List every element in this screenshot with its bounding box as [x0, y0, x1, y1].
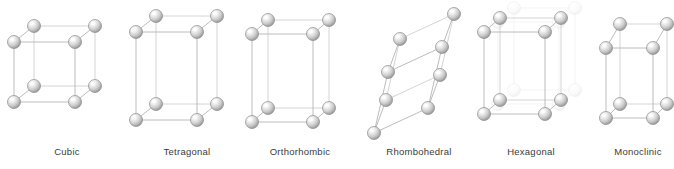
atom-highlight — [496, 96, 500, 99]
atom-highlight — [10, 98, 14, 101]
lattice-atom — [8, 36, 21, 49]
lattice-atom — [600, 112, 613, 125]
unit-cell-atoms — [368, 8, 461, 140]
atom-highlight — [30, 82, 34, 85]
lattice-atom — [661, 98, 674, 111]
unit-cell-rhombohedral — [368, 8, 461, 140]
atom-highlight — [213, 100, 217, 103]
lattice-atom — [368, 127, 381, 140]
lattice-atom — [150, 98, 163, 111]
lattice-atom — [569, 84, 582, 97]
lattice-diagram-canvas — [0, 0, 674, 169]
lattice-atom — [150, 10, 163, 23]
unit-cell-hexagonal — [478, 2, 582, 121]
atom-highlight — [541, 110, 545, 113]
unit-cell-atoms — [600, 18, 674, 125]
atom-highlight — [248, 30, 252, 33]
atom-highlight — [152, 12, 156, 15]
atom-highlight — [602, 114, 606, 117]
atom-highlight — [649, 114, 653, 117]
atom-highlight — [325, 104, 329, 107]
atom-highlight — [132, 116, 136, 119]
atom-highlight — [325, 16, 329, 19]
atom-highlight — [396, 35, 400, 38]
lattice-atom — [555, 94, 568, 107]
atom-highlight — [193, 28, 197, 31]
lattice-atom — [307, 116, 320, 129]
lattice-atom — [323, 102, 336, 115]
atom-highlight — [10, 38, 14, 41]
atom-highlight — [91, 22, 95, 25]
lattice-atom — [539, 26, 552, 39]
lattice-atom — [323, 14, 336, 27]
lattice-atom — [508, 84, 521, 97]
atom-highlight — [438, 43, 442, 46]
atom-highlight — [602, 44, 606, 47]
unit-cell-monoclinic — [600, 18, 674, 125]
lattice-atom — [69, 36, 82, 49]
atom-highlight — [309, 118, 313, 121]
lattice-atom — [130, 26, 143, 39]
atom-highlight — [557, 14, 561, 17]
unit-cell-atoms — [130, 10, 224, 127]
atom-highlight — [541, 28, 545, 31]
lattice-atom — [89, 20, 102, 33]
atom-highlight — [91, 82, 95, 85]
lattice-atom — [555, 12, 568, 25]
atom-highlight — [264, 16, 268, 19]
lattice-atom — [569, 2, 582, 15]
lattice-atom — [647, 42, 660, 55]
unit-cell-cubic — [8, 20, 102, 109]
cell-label-rhombohedral: Rhombohedral — [386, 146, 451, 158]
atom-highlight — [370, 129, 374, 132]
atom-highlight — [309, 30, 313, 33]
lattice-atom — [246, 28, 259, 41]
cell-label-monoclinic: Monoclinic — [614, 146, 661, 158]
lattice-atom — [494, 12, 507, 25]
atom-highlight — [248, 118, 252, 121]
lattice-atom — [478, 26, 491, 39]
unit-cell-edges — [136, 16, 217, 120]
lattice-atom — [191, 26, 204, 39]
unit-cell-atoms — [8, 20, 102, 109]
atom-highlight — [71, 98, 75, 101]
lattice-atom — [246, 116, 259, 129]
cell-label-hexagonal: Hexagonal — [507, 146, 555, 158]
lattice-atom — [448, 8, 461, 21]
lattice-atom — [307, 28, 320, 41]
atom-highlight — [663, 20, 667, 23]
lattice-atom — [494, 94, 507, 107]
lattice-atom — [434, 69, 447, 82]
lattice-atom — [661, 18, 674, 31]
atom-highlight — [663, 100, 667, 103]
lattice-atom — [614, 18, 627, 31]
atom-highlight — [152, 100, 156, 103]
lattice-atom — [614, 98, 627, 111]
atom-highlight — [424, 104, 428, 107]
atom-highlight — [193, 116, 197, 119]
unit-cell-tetragonal — [130, 10, 224, 127]
atom-highlight — [496, 14, 500, 17]
lattice-atom — [262, 102, 275, 115]
atom-highlight — [616, 20, 620, 23]
atom-highlight — [382, 96, 386, 99]
lattice-atom — [380, 94, 393, 107]
lattice-atom — [478, 108, 491, 121]
cell-label-cubic: Cubic — [54, 146, 80, 158]
atom-highlight — [213, 12, 217, 15]
lattice-atom — [69, 96, 82, 109]
lattice-atom — [8, 96, 21, 109]
lattice-atom — [394, 33, 407, 46]
atom-highlight — [264, 104, 268, 107]
atom-highlight — [132, 28, 136, 31]
atom-highlight — [557, 96, 561, 99]
atom-highlight — [480, 110, 484, 113]
atom-highlight — [649, 44, 653, 47]
unit-cell-orthorhombic — [246, 14, 336, 129]
lattice-atom — [191, 114, 204, 127]
cell-label-orthorhombic: Orthorhombic — [270, 146, 331, 158]
lattice-atom — [130, 114, 143, 127]
lattice-atom — [539, 108, 552, 121]
crystal-systems-figure: CubicTetragonalOrthorhombicRhombohedralH… — [0, 0, 674, 169]
atom-highlight — [30, 22, 34, 25]
